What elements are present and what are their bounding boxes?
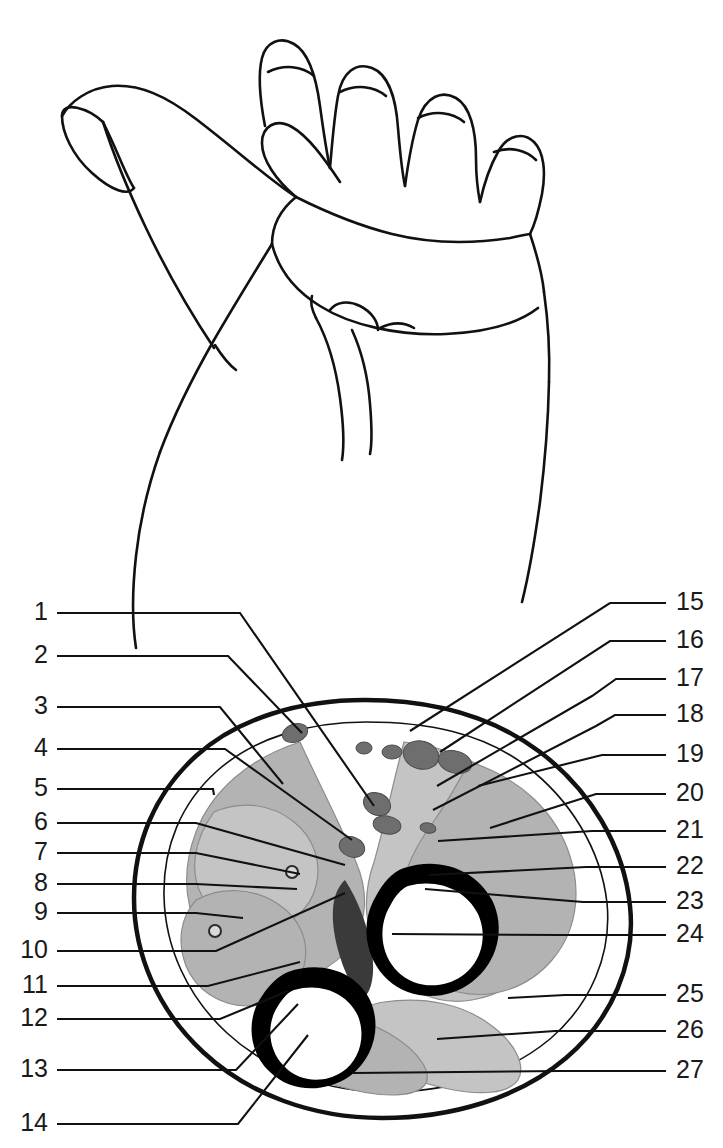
label-number-right-21: 21 <box>676 815 704 843</box>
label-number-left-6: 6 <box>34 807 48 835</box>
label-number-left-2: 2 <box>34 640 48 668</box>
anatomy-figure: 1234567891011121314 15161718192021222324… <box>0 0 723 1148</box>
label-number-left-10: 10 <box>20 935 48 963</box>
label-number-right-27: 27 <box>676 1055 704 1083</box>
label-number-right-20: 20 <box>676 778 704 806</box>
label-number-right-18: 18 <box>676 699 704 727</box>
label-number-left-8: 8 <box>34 868 48 896</box>
label-number-right-24: 24 <box>676 919 704 947</box>
label-number-right-16: 16 <box>676 625 704 653</box>
label-number-left-11: 11 <box>22 970 48 998</box>
label-number-left-4: 4 <box>34 733 48 761</box>
label-number-right-25: 25 <box>676 979 704 1007</box>
label-number-right-22: 22 <box>676 851 704 879</box>
label-number-left-1: 1 <box>34 597 48 625</box>
label-number-right-15: 15 <box>676 587 704 615</box>
label-number-left-5: 5 <box>34 773 48 801</box>
label-number-right-23: 23 <box>676 886 704 914</box>
forearm-cross-section-illustration: 1234567891011121314 15161718192021222324… <box>0 0 723 1148</box>
vessel-b <box>356 742 372 754</box>
label-number-right-17: 17 <box>676 663 704 691</box>
small-vessel-left-2 <box>209 925 221 937</box>
label-number-left-14: 14 <box>20 1108 48 1136</box>
label-number-right-19: 19 <box>676 739 704 767</box>
label-number-left-9: 9 <box>34 897 48 925</box>
label-number-left-12: 12 <box>20 1003 48 1031</box>
label-number-left-3: 3 <box>34 691 48 719</box>
label-number-right-26: 26 <box>676 1015 704 1043</box>
vessel-c <box>382 745 402 759</box>
label-number-left-7: 7 <box>34 837 48 865</box>
leader-line-right-24 <box>392 934 666 935</box>
label-number-left-13: 13 <box>20 1054 48 1082</box>
